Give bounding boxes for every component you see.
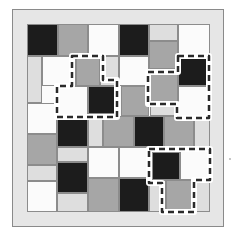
grid-cell-white: [27, 181, 57, 212]
grid-cell-gray: [58, 24, 88, 56]
grid-cell-gray: [150, 72, 178, 102]
grid-cell-black: [57, 162, 88, 193]
grid-cell-light: [57, 193, 88, 212]
grid-cell-gray: [103, 116, 134, 147]
grid-cell-light: [100, 56, 119, 86]
grid-cell-white: [88, 24, 119, 56]
grid-cell-black: [88, 86, 116, 114]
grid-cell-white: [57, 86, 88, 116]
grid-cell-light: [27, 165, 57, 181]
grid-cell-black: [57, 116, 88, 147]
grid-cell-white: [27, 103, 57, 134]
grid-cell-gray: [27, 134, 57, 165]
grid-cell-light: [27, 56, 42, 103]
grid-cell-white: [119, 147, 150, 178]
grid-cell-white: [119, 56, 149, 86]
grid-cell-gray: [88, 178, 119, 212]
grid-cell-white: [42, 56, 76, 86]
grid-cell-white: [178, 24, 210, 56]
grid-cell-gray: [166, 180, 192, 210]
grid-cell-black: [152, 152, 180, 180]
grid-cell-black: [119, 24, 149, 56]
grid-cell-light: [150, 102, 178, 116]
grid-cell-gray: [76, 58, 100, 86]
grid-cell-white: [178, 86, 208, 116]
grid-cell-black: [134, 116, 164, 147]
stray-dot: [229, 158, 231, 160]
grid-cell-black: [178, 58, 208, 86]
grid-cell-light: [194, 116, 210, 147]
grid-cell-light: [149, 24, 178, 41]
grid-cell-light: [149, 180, 166, 212]
grid-cell-white: [88, 147, 119, 178]
grid-cell-light: [192, 180, 210, 212]
grid-cell-white: [180, 150, 210, 180]
grid-cell-black: [119, 178, 149, 212]
grid-cell-black: [27, 24, 58, 56]
grid-cell-gray: [121, 86, 149, 116]
grid-cell-gray: [164, 116, 194, 147]
grid-cell-light: [88, 116, 103, 147]
grid-cell-gray: [149, 41, 178, 69]
grid-cell-light: [57, 147, 88, 162]
